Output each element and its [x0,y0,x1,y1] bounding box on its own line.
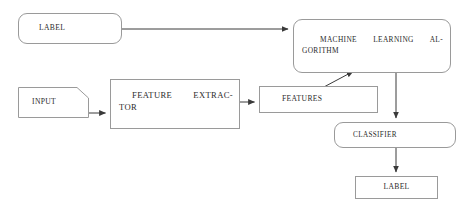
node-ml-algorithm-line1: MACHINE LEARNING AL- [302,35,443,46]
node-input-text: INPUT [32,97,89,108]
node-input[interactable]: INPUT [18,87,89,118]
node-feature-extractor-line1: FEATURE EXTRAC- [119,89,233,101]
node-ml-algorithm-text: MACHINE LEARNING AL- GORITHM [302,35,443,56]
node-features[interactable]: FEATURES [259,86,378,113]
diagram-canvas: LABEL INPUT FEATURE EXTRAC- TOR FEATURES… [0,0,469,207]
node-feature-extractor[interactable]: FEATURE EXTRAC- TOR [110,79,240,129]
node-features-text: FEATURES [282,94,377,105]
node-classifier-text: CLASSIFIER [353,130,455,140]
node-ml-algorithm-line2: GORITHM [302,46,339,55]
node-feature-extractor-text: FEATURE EXTRAC- TOR [119,89,233,113]
node-label-bottom[interactable]: LABEL [355,176,438,199]
node-label-bottom-text: LABEL [356,182,437,193]
node-label-top-text: LABEL [39,23,121,34]
node-feature-extractor-line2: TOR [119,102,137,112]
node-ml-algorithm[interactable]: MACHINE LEARNING AL- GORITHM [293,19,451,73]
node-label-top[interactable]: LABEL [18,13,122,44]
node-classifier[interactable]: CLASSIFIER [334,122,456,148]
